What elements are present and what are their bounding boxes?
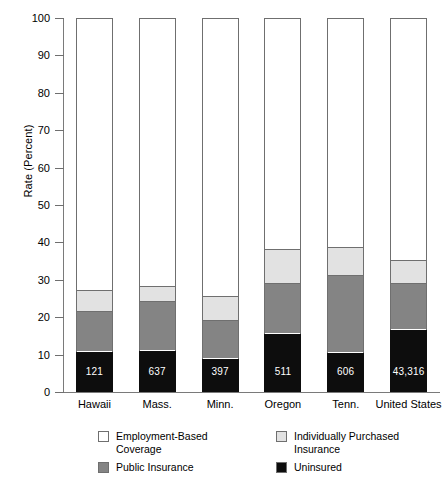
- bar-segment-individually-purchased-insurance[interactable]: [264, 249, 301, 283]
- bar-segment-employment-based-coverage[interactable]: 637: [139, 18, 176, 392]
- bar-value-label: 43,316: [391, 367, 426, 377]
- bar-segment-uninsured[interactable]: 511: [264, 334, 301, 392]
- bar-group[interactable]: 637: [139, 18, 176, 392]
- bar-value-label: 637: [140, 367, 175, 377]
- legend-swatch-icon: [276, 431, 287, 442]
- legend-swatch-icon: [276, 462, 287, 473]
- legend-employment-based-coverage[interactable]: Employment-Based Coverage: [98, 430, 208, 455]
- bar-segment-employment-based-coverage[interactable]: 511: [264, 18, 301, 392]
- bar-group[interactable]: 397: [202, 18, 239, 392]
- plot-area: 12163739751160643,316: [63, 18, 440, 392]
- bar-group[interactable]: 43,316: [390, 18, 427, 392]
- bar-segment-public-insurance[interactable]: [264, 283, 301, 333]
- bar-segment-uninsured[interactable]: 606: [327, 353, 364, 392]
- y-axis-tick-label: 60: [0, 163, 50, 174]
- bar-segment-public-insurance[interactable]: [76, 311, 113, 352]
- bar-segment-individually-purchased-insurance[interactable]: [390, 260, 427, 282]
- y-axis-tick-label: 70: [0, 125, 50, 136]
- bar-segment-individually-purchased-insurance[interactable]: [76, 290, 113, 310]
- bar-segment-employment-based-coverage[interactable]: 606: [327, 18, 364, 392]
- bar-segment-public-insurance[interactable]: [327, 275, 364, 352]
- legend-individually-purchased-insurance[interactable]: Individually Purchased Insurance: [276, 430, 399, 455]
- bar-segment-uninsured[interactable]: 397: [202, 359, 239, 392]
- bar-segment-public-insurance[interactable]: [202, 320, 239, 358]
- bar-segment-uninsured[interactable]: 43,316: [390, 330, 427, 392]
- bar-segment-individually-purchased-insurance[interactable]: [139, 286, 176, 302]
- bar-group[interactable]: 511: [264, 18, 301, 392]
- y-axis-tick-label: 20: [0, 312, 50, 323]
- y-axis-title: Rate (Percent): [22, 81, 34, 241]
- bar-value-label: 606: [328, 367, 363, 377]
- legend-uninsured[interactable]: Uninsured: [276, 461, 342, 474]
- bar-segment-uninsured[interactable]: 121: [76, 352, 113, 392]
- bar-value-label: 511: [265, 367, 300, 377]
- y-axis-tick-label: 0: [0, 387, 50, 398]
- bar-value-label: 397: [203, 367, 238, 377]
- legend-label: Public Insurance: [116, 461, 194, 474]
- bar-segment-individually-purchased-insurance[interactable]: [202, 296, 239, 320]
- legend-label: Individually Purchased Insurance: [294, 430, 399, 455]
- bar-segment-public-insurance[interactable]: [390, 283, 427, 330]
- bar-segment-individually-purchased-insurance[interactable]: [327, 247, 364, 275]
- legend-label: Uninsured: [294, 461, 342, 474]
- legend-public-insurance[interactable]: Public Insurance: [98, 461, 194, 474]
- y-axis-tick-label: 90: [0, 50, 50, 61]
- bar-segment-employment-based-coverage[interactable]: 397: [202, 18, 239, 392]
- bar-group[interactable]: 121: [76, 18, 113, 392]
- y-axis-tick-label: 100: [0, 13, 50, 24]
- bar-segment-public-insurance[interactable]: [139, 301, 176, 349]
- x-axis-line: [63, 392, 440, 393]
- y-axis-tick-label: 10: [0, 350, 50, 361]
- legend-swatch-icon: [98, 431, 109, 442]
- stacked-bar-chart: Rate (Percent) 0102030405060708090100 12…: [0, 0, 442, 489]
- legend-label: Employment-Based Coverage: [116, 430, 208, 455]
- x-axis-tick-label: United States: [349, 398, 442, 410]
- bar-segment-uninsured[interactable]: 637: [139, 351, 176, 393]
- bar-value-label: 121: [77, 367, 112, 377]
- y-axis-tick-label: 50: [0, 200, 50, 211]
- y-axis-tick: [55, 392, 64, 393]
- y-axis-tick-label: 80: [0, 88, 50, 99]
- bar-segment-employment-based-coverage[interactable]: 121: [76, 18, 113, 392]
- bar-segment-employment-based-coverage[interactable]: 43,316: [390, 18, 427, 392]
- y-axis-tick-label: 40: [0, 237, 50, 248]
- bar-group[interactable]: 606: [327, 18, 364, 392]
- y-axis-tick-label: 30: [0, 275, 50, 286]
- legend-swatch-icon: [98, 462, 109, 473]
- chart-legend: Employment-Based CoverageIndividually Pu…: [98, 430, 428, 485]
